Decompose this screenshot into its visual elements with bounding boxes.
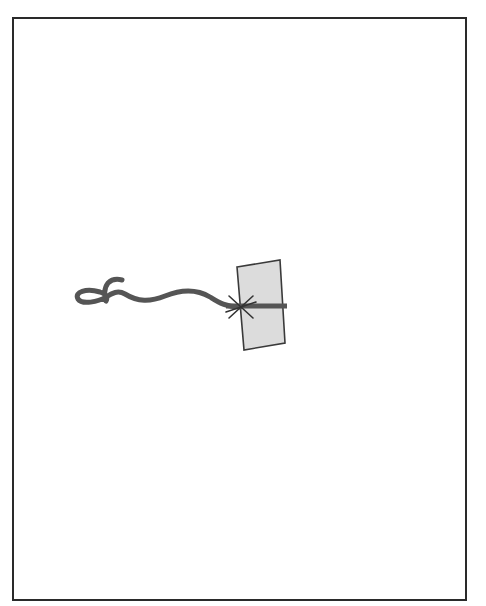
diagram-canvas [0,0,486,606]
wavy-cord [106,291,240,307]
